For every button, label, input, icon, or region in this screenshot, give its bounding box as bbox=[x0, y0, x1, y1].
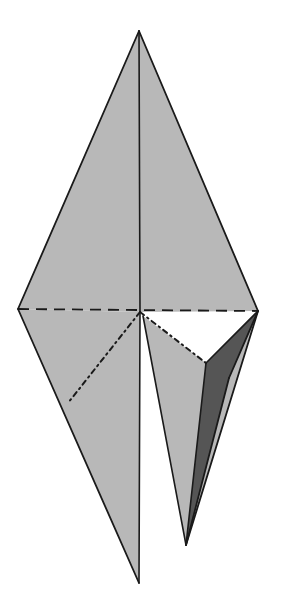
figure-canvas bbox=[0, 0, 281, 606]
edge-center-to-bottom-left-vertical bbox=[139, 312, 140, 583]
edge-apex-to-center-vertical bbox=[139, 31, 140, 312]
polyhedron-diagram bbox=[0, 0, 281, 606]
